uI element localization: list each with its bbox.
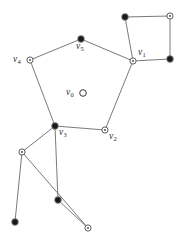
graph-node-q2[interactable] [167,13,173,19]
nodes-group [12,13,174,231]
graph-node-v4[interactable] [27,57,33,63]
node-label-subscript: 5 [81,45,84,52]
filled-node-disc [122,14,129,21]
graph-edge [125,17,133,61]
graph-edge [22,152,88,228]
node-label-v4: v4 [13,55,20,65]
graph-node-b2[interactable] [12,219,19,226]
target-node-centre-dot [29,59,31,61]
graph-node-v3[interactable] [52,123,59,130]
node-label-base: v [13,54,17,64]
graph-canvas [0,0,192,244]
graph-node-b4[interactable] [85,225,91,231]
graph-edge [15,152,22,222]
filled-node-disc [52,123,59,130]
filled-node-disc [12,219,19,226]
node-label-subscript: 2 [114,135,117,142]
graph-node-q1[interactable] [122,14,129,21]
graph-edge [30,39,81,60]
node-label-subscript: 0 [71,91,74,98]
edges-group [15,16,170,228]
target-node-centre-dot [132,60,134,62]
graph-node-v2[interactable] [102,127,108,133]
graph-edge [125,16,170,17]
target-node-centre-dot [104,129,106,131]
node-label-subscript: 3 [64,131,67,138]
node-label-subscript: 4 [18,58,21,65]
graph-edge [22,126,55,152]
graph-figure: v0v1v2v3v4v5 [0,0,192,244]
graph-node-b3[interactable] [55,197,62,204]
filled-node-disc [167,56,174,63]
node-label-v2: v2 [109,132,116,142]
node-label-base: v [76,41,80,51]
node-label-subscript: 1 [143,51,146,58]
node-label-v3: v3 [59,128,66,138]
target-node-centre-dot [87,227,89,229]
graph-node-q3[interactable] [167,56,174,63]
graph-node-b1[interactable] [19,149,25,155]
node-label-base: v [109,131,113,141]
node-label-v0: v0 [66,88,73,98]
node-label-base: v [66,87,70,97]
graph-edge [133,59,170,61]
graph-edge [58,200,88,228]
graph-edge [30,60,55,126]
target-node-centre-dot [21,151,23,153]
graph-edge [81,39,133,61]
graph-edge [55,126,58,200]
filled-node-disc [55,197,62,204]
target-node-centre-dot [169,15,171,17]
plain-node-circle [80,90,87,97]
graph-node-v0[interactable] [80,90,87,97]
node-label-v1: v1 [138,48,145,58]
graph-node-v1[interactable] [130,58,136,64]
node-label-base: v [59,127,63,137]
node-label-base: v [138,47,142,57]
graph-edge [105,61,133,130]
node-label-v5: v5 [76,42,83,52]
